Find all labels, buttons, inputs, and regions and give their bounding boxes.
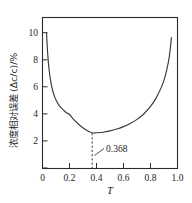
error-vs-transmittance-chart: 2 4 6 8 10 0 0.2 0.4 0.6 0.8 1.0 T — [0, 0, 192, 203]
x-tick-label-02: 0.2 — [64, 173, 76, 183]
y-tick-label-8: 8 — [33, 55, 38, 65]
x-tick-label-08: 0.8 — [145, 173, 157, 183]
minimum-value-label: 0.368 — [106, 144, 128, 154]
x-tick-label-10: 1.0 — [172, 173, 184, 183]
y-tick-label-6: 6 — [33, 82, 38, 92]
chart-figure: 2 4 6 8 10 0 0.2 0.4 0.6 0.8 1.0 T — [0, 0, 192, 203]
y-tick-label-10: 10 — [29, 28, 39, 38]
y-axis-title-cn: 浓度相对误差 — [8, 94, 19, 148]
y-axis-title-formula: (Δc/c)/% — [8, 53, 19, 92]
y-tick-label-2: 2 — [33, 136, 38, 146]
x-tick-label-04: 0.4 — [91, 173, 103, 183]
y-tick-label-4: 4 — [33, 109, 38, 119]
x-tick-label-0: 0 — [40, 173, 45, 183]
y-axis-title: 浓度相对误差 (Δc/c)/% — [8, 53, 19, 148]
x-tick-label-06: 0.6 — [118, 173, 130, 183]
